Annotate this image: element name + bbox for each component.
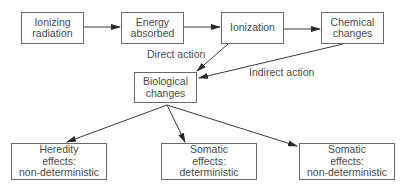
edge-label-indirect-action: Indirect action [249, 66, 314, 78]
node-label: Somatic effects: deterministic [180, 144, 239, 179]
arrow-to-somatic-deterministic [167, 105, 185, 142]
node-label: Ionizing radiation [32, 17, 72, 40]
node-label: Biological changes [143, 76, 188, 99]
arrow-to-somatic-nondeterministic [167, 105, 297, 146]
arrow-to-heredity [67, 105, 167, 142]
node-somatic-deterministic: Somatic effects: deterministic [161, 143, 257, 180]
node-label: Chemical changes [331, 17, 375, 40]
node-label: Energy absorbed [131, 17, 175, 40]
edge-label-direct-action: Direct action [147, 48, 205, 60]
node-label: Ionization [230, 22, 275, 34]
node-biological-changes: Biological changes [134, 72, 197, 103]
node-somatic-nondeterministic: Somatic effects: non-deterministic [299, 143, 395, 180]
node-label: Somatic effects: non-deterministic [307, 144, 387, 179]
node-chemical-changes: Chemical changes [321, 12, 384, 44]
node-label: Heredity effects: non-deterministic [19, 144, 99, 179]
node-ionizing-radiation: Ionizing radiation [21, 12, 84, 44]
node-heredity-effects: Heredity effects: non-deterministic [11, 143, 107, 180]
node-energy-absorbed: Energy absorbed [121, 12, 184, 44]
node-ionization: Ionization [221, 12, 284, 44]
